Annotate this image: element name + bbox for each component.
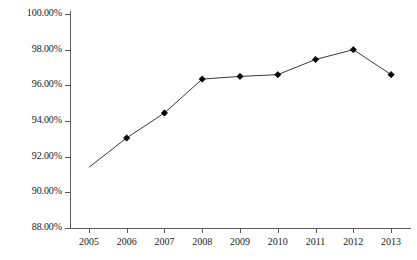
data-point-marker bbox=[350, 46, 356, 52]
data-point-marker bbox=[275, 71, 281, 77]
data-point-marker bbox=[312, 56, 318, 62]
line-chart: 88.00%90.00%92.00%94.00%96.00%98.00%100.… bbox=[0, 0, 417, 260]
data-point-marker bbox=[388, 71, 394, 77]
series-markers bbox=[123, 46, 394, 141]
series-layer bbox=[0, 0, 417, 260]
data-point-marker bbox=[237, 73, 243, 79]
series-line bbox=[89, 50, 391, 168]
